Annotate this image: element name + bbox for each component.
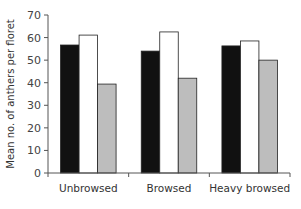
y-tick-label: 70 <box>27 9 41 22</box>
bar <box>222 46 241 173</box>
bars <box>61 32 278 173</box>
bar <box>141 51 160 173</box>
category-label: Heavy browsed <box>209 182 290 194</box>
category-labels: UnbrowsedBrowsedHeavy browsed <box>59 182 290 194</box>
bar <box>61 45 79 173</box>
y-tick-label: 50 <box>27 54 41 67</box>
y-tick-label: 20 <box>27 122 41 135</box>
y-axis-ticks: 010203040506070 <box>27 9 48 180</box>
x-axis-ticks <box>48 173 290 177</box>
bar <box>98 84 117 173</box>
bar <box>79 35 98 173</box>
y-tick-label: 0 <box>34 167 41 180</box>
category-label: Unbrowsed <box>59 182 118 194</box>
bar-chart: 010203040506070 UnbrowsedBrowsedHeavy br… <box>0 0 301 209</box>
y-tick-label: 30 <box>27 99 41 112</box>
y-tick-label: 10 <box>27 144 41 157</box>
y-tick-label: 40 <box>27 77 41 90</box>
bar <box>240 41 259 173</box>
bar <box>160 32 179 173</box>
y-tick-label: 60 <box>27 32 41 45</box>
bar <box>178 78 197 173</box>
y-axis-title: Mean no. of anthers per floret <box>5 19 16 169</box>
bar <box>259 60 278 173</box>
category-label: Browsed <box>147 182 192 194</box>
